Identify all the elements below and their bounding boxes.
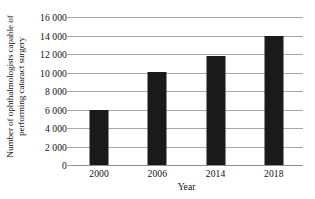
y-tick-label: 12 000 (40, 49, 67, 60)
y-axis-tick-labels: 02 0004 0006 0008 00010 00012 00014 0001… (26, 0, 70, 172)
plot-area (70, 0, 303, 172)
y-tick-label: 10 000 (40, 67, 67, 78)
x-tick-label: 2006 (148, 168, 168, 179)
x-tick-label: 2014 (206, 168, 226, 179)
bar (264, 36, 283, 165)
bar (206, 56, 225, 165)
y-axis-title-line-1: Number of ophthalmologists capable of (5, 15, 16, 157)
bar-series (70, 0, 303, 172)
y-tick-label: 8 000 (45, 86, 67, 97)
bar-slot (187, 17, 245, 165)
y-tick-label: 2 000 (45, 141, 67, 152)
bar-slot (245, 17, 303, 165)
y-tick-label: 4 000 (45, 123, 67, 134)
x-axis-title: Year (70, 181, 303, 192)
bar (148, 72, 167, 165)
bar-slot (128, 17, 186, 165)
x-tick-label: 2018 (264, 168, 284, 179)
y-axis-title-line-2: performing cataract surgery (15, 15, 26, 157)
y-tick-label: 16 000 (40, 12, 67, 23)
bar-slot (70, 17, 128, 165)
bar (90, 110, 109, 166)
y-tick-label: 14 000 (40, 30, 67, 41)
bar-chart: Number of ophthalmologists capable of pe… (0, 0, 315, 199)
x-tick-label: 2000 (89, 168, 109, 179)
y-tick-label: 6 000 (45, 104, 67, 115)
